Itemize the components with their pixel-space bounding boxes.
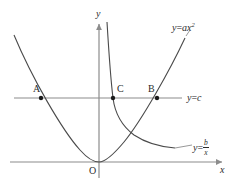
- point-label-a: A: [33, 84, 40, 94]
- math-figure: y x O A C B y=ax2 y=c y= b x: [0, 0, 238, 186]
- hyperbola-equation-label: y= b x: [193, 140, 209, 157]
- point-b-marker: [155, 96, 159, 100]
- parabola-equation-label: y=ax2: [172, 22, 195, 33]
- origin-label: O: [89, 166, 96, 176]
- leader-line-hyperbola: [175, 145, 192, 148]
- point-c-marker: [111, 96, 115, 100]
- line-rhs: c: [197, 92, 201, 103]
- point-a-marker: [39, 96, 43, 100]
- x-axis-label: x: [220, 165, 224, 175]
- hyperbola-fraction: b x: [203, 139, 209, 156]
- point-label-b: B: [148, 84, 155, 94]
- hyperbola-denominator: x: [203, 148, 209, 156]
- point-label-c: C: [117, 84, 124, 94]
- horizontal-line-equation-label: y=c: [187, 93, 202, 103]
- y-axis-label: y: [96, 9, 100, 19]
- hyperbola-numerator: b: [203, 139, 209, 147]
- parabola-exponent: 2: [192, 21, 195, 28]
